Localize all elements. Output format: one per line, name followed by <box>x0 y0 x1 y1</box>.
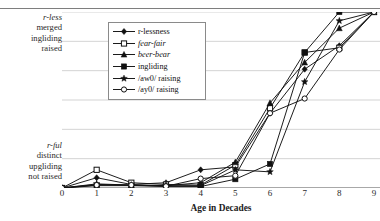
legend-key-glyph <box>112 26 136 37</box>
data-point <box>267 161 272 166</box>
legend-marker-shape <box>121 87 126 92</box>
legend-marker-open-square-icon <box>112 38 136 49</box>
y-axis-top-line-1: r-less <box>43 12 62 22</box>
x-tick-label-9: 9 <box>372 188 377 198</box>
x-tick-label-7: 7 <box>302 188 307 198</box>
x-tick-label-5: 5 <box>233 188 238 198</box>
legend-marker-shape <box>121 52 127 58</box>
data-point <box>198 176 203 181</box>
figure-running-head <box>0 0 380 7</box>
x-tick-label-6: 6 <box>268 188 273 198</box>
y-axis-top-line-4: raised <box>0 43 62 53</box>
y-axis-top-line-3: ingliding <box>0 33 62 43</box>
data-point <box>302 96 307 101</box>
figure-root: r-less merged ingliding raised r-ful dis… <box>0 0 380 221</box>
legend-marker-shape <box>121 41 126 46</box>
figure-top-rule <box>0 8 380 9</box>
legend-marker-filled-triangle-icon <box>112 49 136 60</box>
x-tick-label-2: 2 <box>129 188 134 198</box>
legend-label: /aw0/ raising <box>136 74 181 83</box>
data-point <box>94 182 99 187</box>
legend-item-beer-bear[interactable]: beer-bear <box>112 49 201 61</box>
data-point <box>336 17 343 23</box>
legend-key-glyph <box>112 73 136 84</box>
data-point <box>94 175 99 181</box>
legend-marker-open-circle-icon <box>112 84 136 95</box>
legend-key-glyph <box>112 38 136 49</box>
legend-marker-shape <box>121 75 128 81</box>
legend-marker-filled-square-icon <box>112 61 136 72</box>
legend-item-ay0-raising[interactable]: /ay0/ raising <box>112 84 201 96</box>
y-axis-bottom-line-1: r-ful <box>47 140 62 150</box>
data-point <box>301 78 308 84</box>
data-point <box>233 173 238 178</box>
legend-key-glyph <box>112 84 136 95</box>
legend-marker-shape <box>121 64 126 69</box>
x-axis-tick-labels: 0123456789 <box>62 188 380 201</box>
x-tick-label-1: 1 <box>94 188 99 198</box>
legend-item-aw0-raising[interactable]: /aw0/ raising <box>112 72 201 84</box>
legend-label: r-lessness <box>136 27 170 36</box>
y-axis-bottom-line-4: not raised <box>0 171 62 181</box>
legend-key-glyph <box>112 61 136 72</box>
y-axis-top-label: r-less merged ingliding raised <box>0 12 62 54</box>
data-point <box>267 111 272 116</box>
y-axis-top-line-2: merged <box>0 22 62 32</box>
data-point <box>129 182 134 187</box>
data-point <box>371 12 376 15</box>
y-axis-bottom-line-2: distinct <box>0 150 62 160</box>
x-tick-label-4: 4 <box>198 188 203 198</box>
data-point <box>94 167 99 172</box>
legend-marker-filled-diamond-icon <box>112 26 136 37</box>
legend-label: beer-bear <box>136 50 170 59</box>
data-point <box>302 50 307 55</box>
data-point <box>337 47 342 52</box>
legend-item-r-lessness[interactable]: r-lessness <box>112 26 201 38</box>
data-point <box>267 168 274 174</box>
x-tick-label-0: 0 <box>60 188 65 198</box>
x-tick-label-8: 8 <box>337 188 342 198</box>
y-axis-bottom-label: r-ful distinct upgliding not raised <box>0 140 62 182</box>
data-point <box>337 12 342 15</box>
legend-label: fear-fair <box>136 39 166 48</box>
x-tick-label-3: 3 <box>164 188 169 198</box>
legend-item-ingliding[interactable]: ingliding <box>112 61 201 73</box>
data-point <box>336 25 342 31</box>
legend-item-fear-fair[interactable]: fear-fair <box>112 38 201 50</box>
data-point <box>198 167 203 173</box>
legend-key-glyph <box>112 49 136 60</box>
legend-marker-shape <box>121 29 126 35</box>
legend-marker-filled-star-icon <box>112 73 136 84</box>
y-axis-bottom-line-3: upgliding <box>0 161 62 171</box>
x-axis-title: Age in Decades <box>62 203 380 213</box>
legend-label: ingliding <box>136 62 168 71</box>
chart-legend: r-lessnessfear-fairbeer-bearingliding/aw… <box>108 22 206 100</box>
legend-label: /ay0/ raising <box>136 85 179 94</box>
